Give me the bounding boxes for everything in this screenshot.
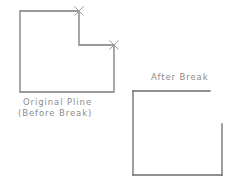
original-pline-shape (20, 11, 114, 92)
before-break-label: (Before Break) (18, 108, 92, 119)
after-break-label: After Break (151, 72, 209, 83)
cad-drawing (0, 0, 244, 183)
drawing-canvas: Original Pline (Before Break) After Brea… (0, 0, 244, 183)
after-break-shape (133, 91, 222, 175)
original-pline-label: Original Pline (23, 97, 92, 108)
break-marker-group (75, 7, 119, 50)
